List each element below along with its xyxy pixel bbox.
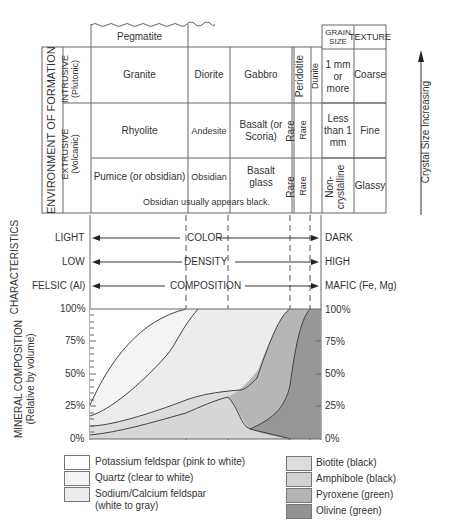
environment-label: ENVIRONMENT OF FORMATION <box>46 48 60 214</box>
cell-grain-glassy: Non-crystalline <box>324 158 350 216</box>
cell-basalt-glass: Basalt glass <box>236 160 286 194</box>
char-mafic: MAFIC (Fe, Mg) <box>325 280 397 291</box>
characteristics-label: CHARACTERISTICS <box>9 217 23 317</box>
chart-ylabel: MINERAL COMPOSITION(Relative by volume) <box>13 319 39 439</box>
legend-swatch-pyroxene <box>286 488 312 503</box>
ytick-left-25: 25% <box>65 400 85 411</box>
crystal-size-label: Crystal Size Increasing <box>420 77 434 187</box>
char-dark: DARK <box>325 232 353 243</box>
cell-andesite: Andesite <box>188 103 230 158</box>
legend-swatch-biotite <box>286 456 312 471</box>
char-color: COLOR <box>187 232 223 243</box>
legend-swatch-potassium-feldspar <box>64 455 90 470</box>
char-light: LIGHT <box>55 232 84 243</box>
ytick-right-75: 75% <box>325 336 345 347</box>
texture-header: TEXTURE <box>354 25 386 49</box>
cell-rare-1: Rare <box>285 120 299 142</box>
obsidian-note: Obsidian usually appears black. <box>143 197 270 207</box>
legend-olivine: Olivine (green) <box>316 505 382 517</box>
legend-amphibole: Amphibole (black) <box>316 473 396 485</box>
legend-pyroxene: Pyroxene (green) <box>316 489 393 501</box>
ytick-right-50: 50% <box>325 368 345 379</box>
pegmatite-label: Pegmatite <box>91 28 188 46</box>
legend-swatch-olivine <box>286 504 312 519</box>
cell-obsidian: Obsidian <box>188 160 230 194</box>
ytick-right-25: 25% <box>325 400 345 411</box>
ytick-right-0: 0% <box>325 433 339 444</box>
legend-swatch-na-ca-feldspar <box>64 487 90 502</box>
cell-basalt: Basalt (or Scoria) <box>232 103 290 158</box>
legend-swatch-quartz <box>64 471 90 486</box>
legend-swatch-amphibole <box>286 472 312 487</box>
cell-dunite: Dunite <box>310 56 322 96</box>
mineral-chart <box>90 309 321 439</box>
char-felsic: FELSIC (Al) <box>32 280 85 291</box>
cell-texture-coarse: Coarse <box>354 47 386 103</box>
cell-rare-4: Rare <box>298 175 310 197</box>
cell-peridotite: Peridotite <box>294 48 308 104</box>
legend-na-ca-feldspar: Sodium/Calcium feldspar(white to gray) <box>95 488 206 512</box>
char-high: HIGH <box>325 256 350 267</box>
ytick-left-75: 75% <box>65 335 85 346</box>
legend-potassium-feldspar: Potassium feldspar (pink to white) <box>95 456 245 468</box>
legend-quartz: Quartz (clear to white) <box>95 472 193 484</box>
legend-biotite: Biotite (black) <box>316 457 377 469</box>
ytick-left-100: 100% <box>60 303 86 314</box>
ytick-left-50: 50% <box>65 368 85 379</box>
char-composition: COMPOSITION <box>170 280 241 291</box>
cell-grain-coarse: 1 mm or more <box>322 52 354 102</box>
cell-pumice: Pumice (or obsidian) <box>91 160 188 194</box>
cell-grain-fine: Less than 1 mm <box>322 103 354 158</box>
ytick-left-0: 0% <box>70 433 84 444</box>
char-density: DENSITY <box>184 256 227 267</box>
ytick-right-100: 100% <box>325 304 351 315</box>
cell-rhyolite: Rhyolite <box>91 103 188 158</box>
cell-rare-3: Rare <box>285 176 299 198</box>
cell-diorite: Diorite <box>188 47 230 103</box>
extrusive-label: EXTRUSIVE(Volcanic) <box>60 117 82 191</box>
char-low: LOW <box>62 256 85 267</box>
cell-rare-2: Rare <box>298 119 310 141</box>
cell-texture-fine: Fine <box>354 103 386 158</box>
cell-gabbro: Gabbro <box>230 47 292 103</box>
cell-texture-glassy: Glassy <box>354 158 386 213</box>
cell-granite: Granite <box>91 47 188 103</box>
intrusive-label: INTRUSIVE(Plutonic) <box>60 51 82 107</box>
